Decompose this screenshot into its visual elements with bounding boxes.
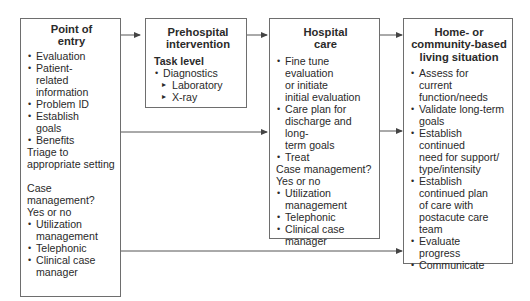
list-item: Care plan for xyxy=(276,103,375,115)
list-item: Problem ID xyxy=(27,98,116,110)
list-item: Clinical case xyxy=(276,223,375,235)
section-heading: Task level xyxy=(154,55,242,67)
list-item: term goals xyxy=(276,139,375,151)
home-community-title: Home- orcommunity-basedliving situation xyxy=(410,26,508,63)
list-item: related xyxy=(27,74,116,86)
list-item: Evaluate xyxy=(410,235,508,247)
list-item: Establish xyxy=(410,175,508,187)
point-of-entry-title: Point ofentry xyxy=(27,23,116,48)
list-item: management xyxy=(276,199,375,211)
list-item: appropriate setting xyxy=(27,158,116,170)
list-item: Diagnostics xyxy=(154,67,242,79)
list-item: Utilization xyxy=(27,218,116,230)
hospital-care-list: Fine tuneevaluationor initiateinitial ev… xyxy=(276,55,375,247)
prehospital-title: Prehospitalintervention xyxy=(154,26,242,51)
list-item: goals xyxy=(27,122,116,134)
list-item: management? xyxy=(27,194,116,206)
list-item: evaluation xyxy=(276,67,375,79)
list-item: Establish continued xyxy=(410,127,508,151)
spacer xyxy=(27,170,116,182)
list-item: Yes or no xyxy=(27,206,116,218)
list-item: progress xyxy=(410,247,508,259)
title-line: entry xyxy=(27,35,116,47)
list-item: Benefits xyxy=(27,134,116,146)
home-community-box: Home- orcommunity-basedliving situation … xyxy=(403,18,513,264)
list-item: information xyxy=(27,86,116,98)
title-line: Home- or xyxy=(410,26,508,38)
list-item: need for support/ xyxy=(410,151,508,163)
title-line: Prehospital xyxy=(154,26,242,38)
title-line: community-based xyxy=(410,38,508,50)
title-line: Point of xyxy=(27,23,116,35)
list-item: Establish xyxy=(27,110,116,122)
point-of-entry-box: Point ofentry EvaluationPatient-relatedi… xyxy=(20,18,121,297)
list-item: Yes or no xyxy=(276,175,375,187)
list-item: Fine tune xyxy=(276,55,375,67)
prehospital-intervention-box: Prehospitalintervention Task levelDiagno… xyxy=(145,18,247,108)
list-item: discharge and long- xyxy=(276,115,375,139)
list-item: Utilization xyxy=(276,187,375,199)
list-item: type/intensity xyxy=(410,163,508,175)
hospital-care-title: Hospitalcare xyxy=(276,26,375,51)
list-item: team xyxy=(410,223,508,235)
list-item: X-ray xyxy=(154,91,242,103)
list-item: postacute care xyxy=(410,211,508,223)
list-item: Validate long-term xyxy=(410,103,508,115)
list-item: or initiate xyxy=(276,79,375,91)
list-item: Case management? xyxy=(276,163,375,175)
list-item: management xyxy=(27,230,116,242)
list-item: Assess for xyxy=(410,67,508,79)
list-item: function/needs xyxy=(410,91,508,103)
list-item: manager xyxy=(27,266,116,278)
title-line: Hospital xyxy=(276,26,375,38)
title-line: care xyxy=(276,38,375,50)
hospital-care-box: Hospitalcare Fine tuneevaluationor initi… xyxy=(269,18,380,239)
list-item: Patient- xyxy=(27,62,116,74)
home-community-list: Assess forcurrentfunction/needsValidate … xyxy=(410,67,508,271)
list-item: Laboratory xyxy=(154,79,242,91)
list-item: Evaluation xyxy=(27,50,116,62)
list-item: Telephonic xyxy=(276,211,375,223)
list-item: Treat xyxy=(276,151,375,163)
list-item: Telephonic xyxy=(27,242,116,254)
list-item: Communicate xyxy=(410,259,508,271)
list-item: of care with xyxy=(410,199,508,211)
list-item: initial evaluation xyxy=(276,91,375,103)
list-item: continued plan xyxy=(410,187,508,199)
list-item: Clinical case xyxy=(27,254,116,266)
list-item: goals xyxy=(410,115,508,127)
list-item: Case xyxy=(27,182,116,194)
list-item: manager xyxy=(276,235,375,247)
list-item: Triage to xyxy=(27,146,116,158)
list-item: current xyxy=(410,79,508,91)
title-line: intervention xyxy=(154,38,242,50)
title-line: living situation xyxy=(410,51,508,63)
point-of-entry-list: EvaluationPatient-relatedinformationProb… xyxy=(27,50,116,278)
prehospital-list: Task levelDiagnosticsLaboratoryX-ray xyxy=(154,55,242,103)
